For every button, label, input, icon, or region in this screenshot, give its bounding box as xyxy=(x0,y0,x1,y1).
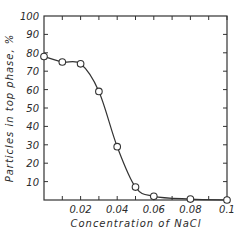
y-tick-label: 50 xyxy=(26,103,39,114)
x-tick-label: 0.08 xyxy=(179,204,201,215)
data-point-marker xyxy=(114,143,121,150)
y-tick-label: 30 xyxy=(26,140,39,151)
x-tick-label: 0.06 xyxy=(143,204,165,215)
y-tick-label: 80 xyxy=(26,48,39,59)
chart: 0.020.040.060.080.1 10203040506070809010… xyxy=(0,0,238,233)
data-point-marker xyxy=(41,53,48,60)
y-tick-label: 40 xyxy=(26,121,39,132)
data-point-marker xyxy=(77,61,84,68)
y-tick-label: 20 xyxy=(26,158,39,169)
x-tick-label: 0.02 xyxy=(69,204,91,215)
data-point-marker xyxy=(59,59,66,66)
y-tick-label: 70 xyxy=(26,66,39,77)
data-markers xyxy=(41,53,231,203)
x-axis-ticks: 0.020.040.060.080.1 xyxy=(62,16,235,215)
x-tick-label: 0.04 xyxy=(106,204,128,215)
data-point-marker xyxy=(151,193,158,200)
data-point-marker xyxy=(132,184,139,191)
y-tick-label: 100 xyxy=(20,11,39,22)
data-point-marker xyxy=(96,88,103,95)
x-axis-label: Concentration of NaCl xyxy=(70,218,201,229)
plot-frame xyxy=(44,16,227,200)
x-tick-label: 0.1 xyxy=(219,204,235,215)
y-tick-label: 60 xyxy=(26,85,39,96)
data-point-marker xyxy=(224,197,231,204)
y-tick-label: 90 xyxy=(26,29,39,40)
y-tick-label: 10 xyxy=(26,177,39,188)
data-curve xyxy=(44,56,227,200)
data-point-marker xyxy=(187,196,194,203)
y-axis-label: Particles in top phase, % xyxy=(4,34,15,183)
